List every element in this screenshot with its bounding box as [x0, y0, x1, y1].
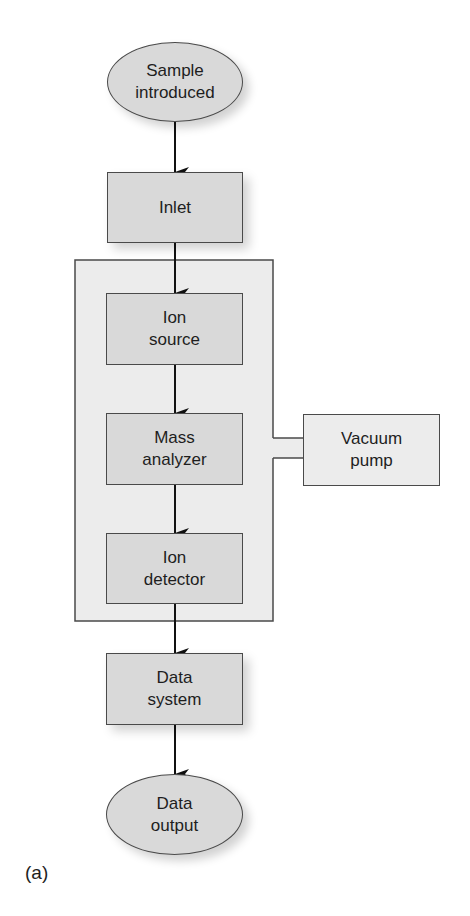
node-ion-detector: Ion detector — [106, 533, 243, 604]
node-label: Data output — [151, 793, 198, 837]
node-inlet: Inlet — [107, 172, 243, 243]
node-label: Vacuum pump — [341, 428, 402, 472]
node-data-system: Data system — [106, 653, 243, 725]
node-label: Mass analyzer — [142, 427, 206, 471]
node-label: Data system — [148, 667, 202, 711]
node-mass-analyzer: Mass analyzer — [106, 413, 243, 485]
panel-label: (a) — [25, 862, 48, 884]
node-label: Inlet — [159, 197, 191, 219]
node-vacuum-pump: Vacuum pump — [303, 414, 440, 486]
node-data-output: Data output — [106, 774, 243, 855]
node-label: Ion detector — [144, 547, 205, 591]
node-label: Ion source — [149, 307, 200, 351]
node-label: Sample introduced — [135, 60, 214, 104]
node-sample-introduced: Sample introduced — [107, 42, 243, 122]
node-ion-source: Ion source — [106, 293, 243, 365]
